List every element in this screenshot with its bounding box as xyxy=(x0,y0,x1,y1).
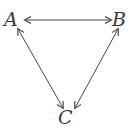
edge-b-c-arrow xyxy=(75,29,118,108)
diagram-canvas: A B C xyxy=(0,0,134,132)
edge-a-c-arrow xyxy=(18,29,63,108)
node-c-label: C xyxy=(58,108,73,127)
node-a-label: A xyxy=(4,10,18,29)
node-b-label: B xyxy=(112,10,126,29)
